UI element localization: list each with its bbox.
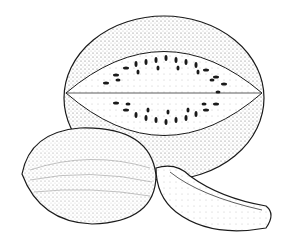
illustration-canvas bbox=[0, 0, 292, 251]
whole-melon bbox=[22, 128, 156, 224]
watermelon-illustration bbox=[0, 0, 292, 251]
melon-wedge bbox=[156, 166, 271, 231]
